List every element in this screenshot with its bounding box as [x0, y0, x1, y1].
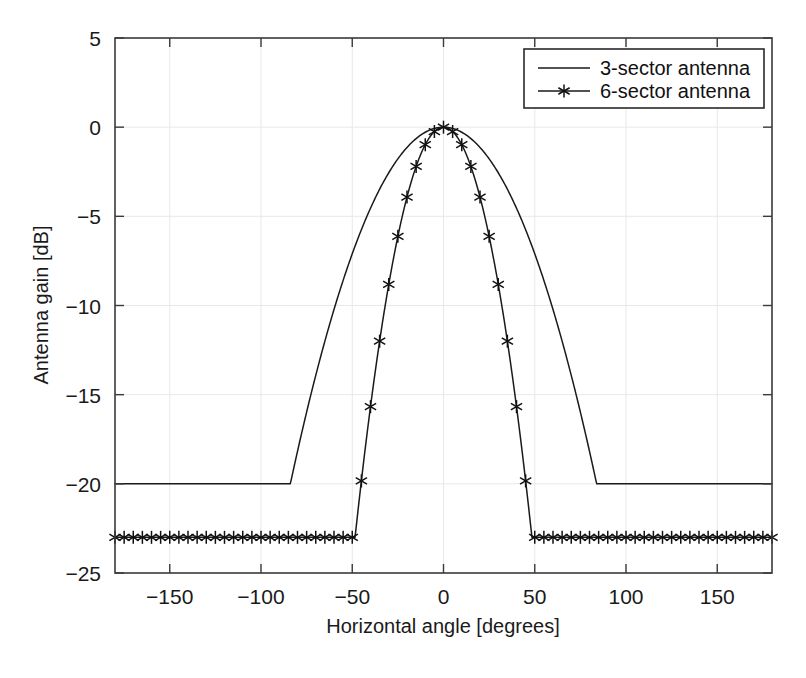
legend[interactable]: 3-sector antenna 6-sector antenna — [524, 49, 764, 108]
x-tick-label: 0 — [438, 585, 450, 608]
y-tick-label: −5 — [77, 205, 101, 228]
x-tick-label: −150 — [146, 585, 193, 608]
legend-label-6sector: 6-sector antenna — [600, 80, 751, 102]
x-tick-label: −50 — [334, 585, 370, 608]
x-axis-title: Horizontal angle [degrees] — [326, 615, 559, 637]
y-tick-label: 5 — [89, 27, 101, 50]
x-tick-label: 100 — [608, 585, 643, 608]
y-tick-label: −25 — [65, 562, 101, 585]
y-tick-label: −10 — [65, 295, 101, 318]
legend-label-3sector: 3-sector antenna — [600, 57, 751, 79]
y-tick-label: −15 — [65, 384, 101, 407]
x-tick-label: −100 — [237, 585, 284, 608]
y-tick-label: −20 — [65, 473, 101, 496]
x-tick-label: 50 — [523, 585, 546, 608]
antenna-gain-figure: −150−100−50050100150 50−5−10−15−20−25 Ho… — [0, 0, 806, 678]
y-tick-label: 0 — [89, 116, 101, 139]
antenna-gain-chart: −150−100−50050100150 50−5−10−15−20−25 Ho… — [0, 0, 806, 678]
x-tick-label: 150 — [700, 585, 735, 608]
y-axis-title: Antenna gain [dB] — [30, 225, 52, 384]
